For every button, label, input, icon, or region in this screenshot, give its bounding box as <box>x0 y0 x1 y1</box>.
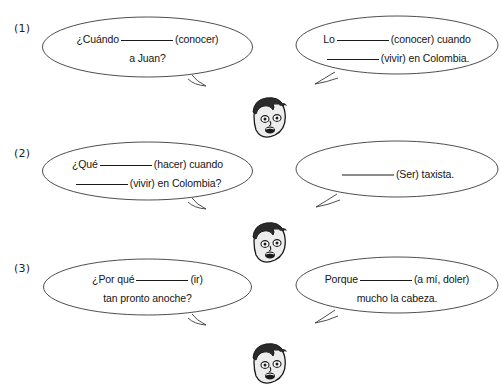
fill-in-blank[interactable] <box>76 174 128 185</box>
speech-bubble-1-right-text: Lo(conocer) cuando (vivir) en Colombia. <box>314 30 480 68</box>
item-number-2: (2) <box>14 147 30 160</box>
bubble-line: (vivir) en Colombia? <box>62 174 234 193</box>
speech-bubble-3-right-text: Porque(a mí, doler) mucho la cabeza. <box>314 270 480 308</box>
bubble-line: ¿Cuándo(conocer) <box>62 30 234 49</box>
bubble-line: Porque(a mí, doler) <box>314 270 480 289</box>
speech-bubble-1-right: Lo(conocer) cuando (vivir) en Colombia. <box>293 14 501 84</box>
speech-bubble-3-right: Porque(a mí, doler) mucho la cabeza. <box>293 254 501 324</box>
speech-bubble-group-2-right: (Ser) taxista. <box>293 139 501 209</box>
speech-bubble-group-1-left: ¿Cuándo(conocer) a Juan? <box>40 14 255 84</box>
item-number-3: (3) <box>14 262 30 275</box>
worksheet: (1) ¿Cuándo(conocer) a Juan? <box>0 0 501 385</box>
exercise-item-2: (2) ¿Qué(hacer) cuando (vivir) en Colomb… <box>0 133 501 258</box>
exercise-item-1: (1) ¿Cuándo(conocer) a Juan? <box>0 8 501 133</box>
fill-in-blank[interactable] <box>327 49 379 60</box>
bubble-line: tan pronto anoche? <box>62 289 234 308</box>
item-number-1: (1) <box>14 22 30 35</box>
speech-bubble-3-left: ¿Por qué(ir) tan pronto anoche? <box>40 254 255 324</box>
fill-in-blank[interactable] <box>360 270 412 281</box>
speech-bubble-3-left-text: ¿Por qué(ir) tan pronto anoche? <box>62 270 234 308</box>
speech-bubble-group-1-right: Lo(conocer) cuando (vivir) en Colombia. <box>293 14 501 84</box>
male-face-dark-hair-icon <box>245 342 291 385</box>
fill-in-blank[interactable] <box>136 270 188 281</box>
bubble-line: (vivir) en Colombia. <box>314 49 480 68</box>
fill-in-blank[interactable] <box>337 30 389 41</box>
speech-bubble-2-right: (Ser) taxista. <box>293 139 501 209</box>
speech-bubble-2-left-text: ¿Qué(hacer) cuando (vivir) en Colombia? <box>62 155 234 193</box>
speech-bubble-group-3-right: Porque(a mí, doler) mucho la cabeza. <box>293 254 501 324</box>
speech-bubble-group-3-left: ¿Por qué(ir) tan pronto anoche? <box>40 254 255 324</box>
speech-bubble-group-2-left: ¿Qué(hacer) cuando (vivir) en Colombia? <box>40 139 255 209</box>
bubble-line: ¿Qué(hacer) cuando <box>62 155 234 174</box>
speech-bubble-2-right-text: (Ser) taxista. <box>314 165 480 184</box>
fill-in-blank[interactable] <box>342 165 394 176</box>
speech-bubble-1-left-text: ¿Cuándo(conocer) a Juan? <box>62 30 234 68</box>
speech-bubble-1-left: ¿Cuándo(conocer) a Juan? <box>40 14 255 84</box>
bubble-line: (Ser) taxista. <box>314 165 480 184</box>
fill-in-blank[interactable] <box>121 30 173 41</box>
bubble-line: ¿Por qué(ir) <box>62 270 234 289</box>
bubble-line: Lo(conocer) cuando <box>314 30 480 49</box>
fill-in-blank[interactable] <box>100 155 152 166</box>
bubble-line: a Juan? <box>62 49 234 68</box>
speech-bubble-2-left: ¿Qué(hacer) cuando (vivir) en Colombia? <box>40 139 255 209</box>
bubble-line: mucho la cabeza. <box>314 289 480 308</box>
exercise-item-3: (3) ¿Por qué(ir) tan pronto anoche? <box>0 248 501 373</box>
